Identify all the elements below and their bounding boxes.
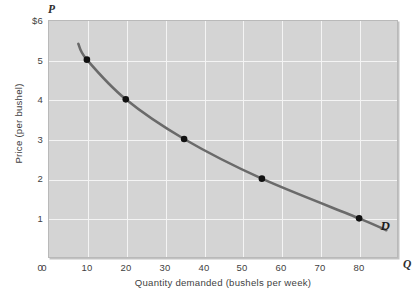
x-axis-tick-label: 80 [349,262,369,273]
demand-curve-figure: D $6 5 4 3 2 1 0 0 10 20 30 40 50 60 70 … [0,0,417,297]
y-axis-title: Price (per bushel) [13,59,24,189]
x-axis-tick-label: 40 [194,262,214,273]
data-point [84,56,91,63]
y-axis-tick-label: 1 [18,213,43,224]
x-axis-tick-label: 60 [271,262,291,273]
data-point [259,175,266,182]
demand-curve [78,44,386,230]
x-axis-title: Quantity demanded (bushels per week) [48,277,398,288]
demand-curve-plot [48,20,398,258]
data-point [122,96,129,103]
x-axis-symbol: Q [403,258,411,270]
y-axis-tick-label: $6 [18,15,43,26]
x-axis-tick-label: 10 [77,262,97,273]
data-point [356,215,363,222]
x-axis-tick-label: 20 [116,262,136,273]
x-axis-tick-label: 70 [310,262,330,273]
x-axis-tick-label: 50 [232,262,252,273]
demand-curve-label: D [381,218,390,234]
y-axis-symbol: P [48,3,55,15]
x-axis-tick-label: 30 [155,262,175,273]
x-axis-tick-label: 0 [34,262,54,273]
data-point [181,136,188,143]
